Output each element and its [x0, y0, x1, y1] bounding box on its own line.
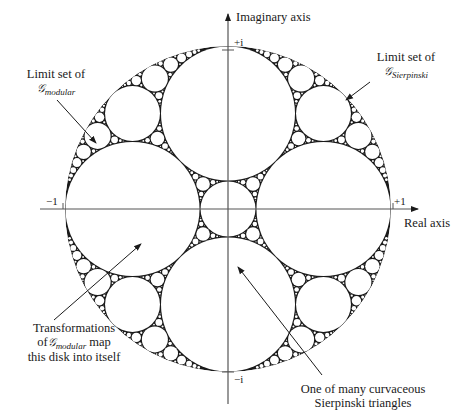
sierpinski-limit-label: Limit set of 𝒢Sierpinski	[358, 50, 454, 79]
arrow-modular-limit	[57, 100, 96, 143]
figure: Imaginary axis Real axis +i −i −1 +1 Lim…	[0, 0, 456, 418]
sierpinski-triangle-label: One of many curvaceous Sierpinski triang…	[283, 382, 443, 410]
disk-transform-label: Transformations of𝒢modular map this disk…	[14, 321, 134, 364]
plus-i-label: +i	[234, 35, 243, 49]
disk-transform-line2: of𝒢modular map	[14, 335, 134, 350]
disk-transform-line3: this disk into itself	[14, 350, 134, 364]
arrow-sierpinski-limit	[346, 82, 370, 100]
modular-limit-label: Limit set of 𝒢modular	[8, 67, 104, 96]
disk-transform-line1: Transformations	[14, 321, 134, 335]
sierpinski-triangle-line1: One of many curvaceous	[283, 382, 443, 396]
modular-limit-line1: Limit set of	[8, 67, 104, 81]
real-axis-label: Real axis	[404, 216, 450, 230]
sierpinski-limit-line1: Limit set of	[358, 50, 454, 64]
imaginary-axis-label: Imaginary axis	[236, 10, 311, 24]
modular-symbol: 𝒢modular	[8, 81, 104, 96]
minus-1-label: −1	[46, 194, 58, 208]
minus-i-label: −i	[234, 372, 243, 386]
plus-1-label: +1	[394, 194, 406, 208]
sierpinski-symbol: 𝒢Sierpinski	[358, 64, 454, 79]
sierpinski-triangle-line2: Sierpinski triangles	[283, 396, 443, 410]
